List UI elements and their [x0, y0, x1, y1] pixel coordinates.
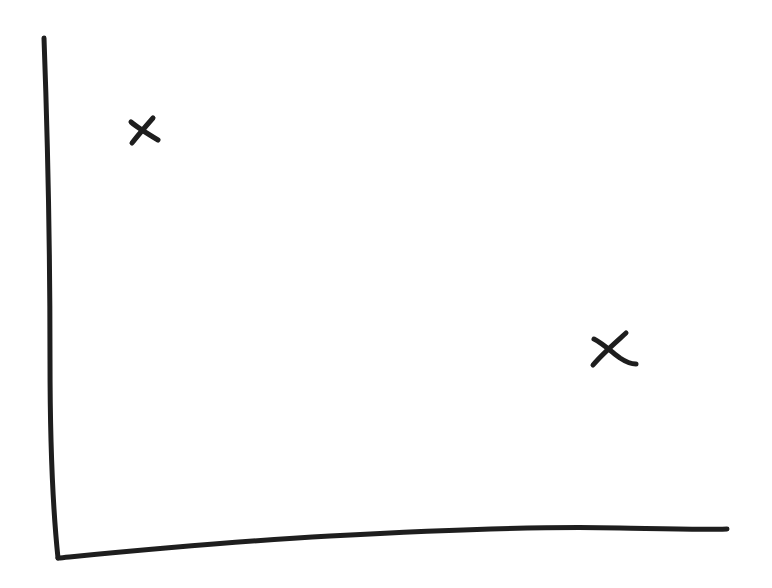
y-axis [44, 38, 58, 558]
x-axis [58, 527, 727, 558]
scatter-plot-sketch [0, 0, 772, 588]
data-point-2-x-marker [593, 333, 636, 365]
data-point-1-x-marker [131, 118, 158, 143]
